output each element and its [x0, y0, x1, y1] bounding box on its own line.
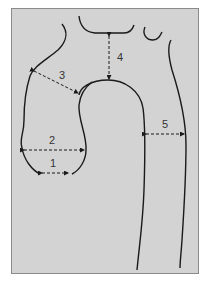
- vessel-outline: [21, 16, 186, 270]
- label-1: 1: [50, 157, 56, 169]
- measurement-3-line: [34, 71, 78, 93]
- label-3: 3: [59, 69, 65, 81]
- measurement-lines: [24, 36, 184, 173]
- label-2: 2: [49, 134, 55, 146]
- label-4: 4: [117, 51, 123, 63]
- aorta-diagram: 1 2 3 4 5: [0, 0, 208, 283]
- label-5: 5: [162, 118, 168, 130]
